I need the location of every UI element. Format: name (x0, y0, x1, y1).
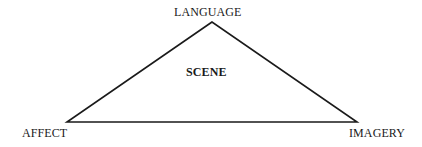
vertex-label-affect: AFFECT (22, 126, 67, 141)
vertex-label-imagery: IMAGERY (349, 126, 405, 141)
center-label-scene: SCENE (186, 65, 227, 80)
vertex-label-language: LANGUAGE (174, 5, 241, 20)
triangle-diagram: LANGUAGE AFFECT IMAGERY SCENE (0, 0, 422, 147)
